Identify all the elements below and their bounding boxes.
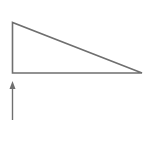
- up-arrow-icon: [10, 81, 16, 120]
- diagram-canvas: [0, 0, 157, 146]
- right-triangle: [13, 23, 143, 74]
